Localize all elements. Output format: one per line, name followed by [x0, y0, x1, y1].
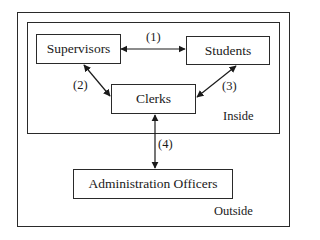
students-node: Students: [186, 36, 270, 65]
edge-2-arrow: [84, 65, 110, 96]
edge-2-label: (2): [73, 79, 88, 92]
edge-1-label: (1): [146, 31, 161, 44]
clerks-node: Clerks: [111, 84, 196, 114]
administration-officers-label: Administration Officers: [88, 176, 217, 192]
edge-3-label: (3): [222, 80, 237, 93]
outside-region-label: Outside: [214, 205, 253, 218]
inside-region-label: Inside: [223, 110, 254, 123]
administration-officers-node: Administration Officers: [73, 169, 233, 199]
supervisors-label: Supervisors: [47, 41, 111, 57]
clerks-label: Clerks: [136, 91, 171, 107]
edge-4-label: (4): [158, 138, 173, 151]
students-label: Students: [205, 43, 252, 59]
supervisors-node: Supervisors: [36, 34, 121, 64]
